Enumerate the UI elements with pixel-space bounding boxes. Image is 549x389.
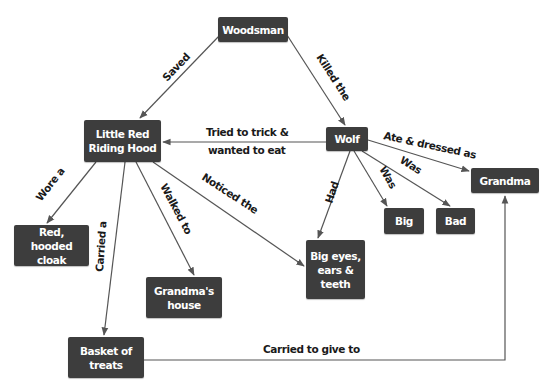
edge-label-was-bad: Was (398, 154, 424, 177)
edge-label-walked: Walked to (158, 181, 195, 236)
node-little-red-riding-hood: Little Red Riding Hood (84, 120, 161, 162)
node-label: Red, hooded cloak (18, 225, 85, 267)
node-label: Basket of treats (80, 344, 132, 372)
edge-carried (104, 162, 125, 335)
node-big: Big (384, 208, 424, 234)
edge-label-noticed: Noticed the (200, 171, 261, 216)
edge-label-give: Carried to give to (263, 343, 360, 355)
node-grandma: Grandma (471, 168, 539, 193)
edges-layer: Saved Killed the Tried to trick & wanted… (0, 0, 549, 389)
node-label: Wolf (335, 132, 360, 146)
node-woodsman: Woodsman (218, 17, 288, 42)
node-wolf: Wolf (326, 127, 368, 151)
node-bad: Bad (436, 208, 475, 234)
node-label: Little Red Riding Hood (89, 127, 157, 155)
edge-label-trick-2: wanted to eat (208, 144, 286, 156)
edge-was-big (354, 151, 387, 206)
concept-map: Saved Killed the Tried to trick & wanted… (0, 0, 549, 389)
edge-label-had: Had (322, 180, 340, 205)
edge-label-ate: Ate & dressed as (383, 129, 478, 160)
node-label: Bad (445, 214, 466, 228)
node-basket-of-treats: Basket of treats (68, 337, 144, 378)
node-red-hooded-cloak: Red, hooded cloak (14, 225, 89, 266)
edge-label-killed: Killed the (314, 52, 353, 103)
edge-label-carried: Carried a (93, 221, 109, 273)
edge-label-was-big: Was (377, 164, 399, 190)
node-label: Woodsman (222, 23, 284, 37)
edge-label-saved: Saved (160, 50, 192, 83)
edge-label-trick-1: Tried to trick & (206, 126, 289, 138)
edge-saved (140, 35, 220, 118)
node-label: Grandma (479, 174, 530, 188)
node-big-eyes-ears-teeth: Big eyes, ears & teeth (306, 240, 365, 299)
node-label: Grandma's house (154, 284, 214, 312)
node-grandmas-house: Grandma's house (146, 277, 222, 318)
node-label: Big eyes, ears & teeth (310, 249, 361, 291)
edge-label-wore: Wore a (33, 165, 67, 203)
node-label: Big (395, 214, 413, 228)
